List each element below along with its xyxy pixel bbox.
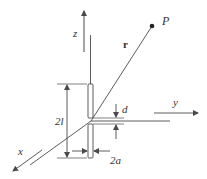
point-p-label: P <box>161 14 170 28</box>
dipole-diagram: z P r y x 2l d 2a <box>0 0 207 179</box>
length-label: 2l <box>55 115 64 127</box>
gap-label: d <box>122 103 128 115</box>
diameter-label: 2a <box>110 154 122 166</box>
z-axis-label: z <box>72 27 78 39</box>
y-axis-label: y <box>172 96 178 108</box>
upper-dipole-arm <box>88 84 93 118</box>
x-axis-line <box>30 121 91 165</box>
point-p-dot <box>150 24 155 29</box>
radius-vector-label: r <box>123 38 128 50</box>
x-axis-label: x <box>17 145 23 157</box>
lower-dipole-arm <box>88 124 93 158</box>
